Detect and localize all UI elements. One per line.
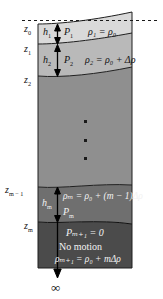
layer-1-pressure-label: P1: [64, 27, 73, 39]
depth-label-zm-1-sub: m − 1: [9, 190, 24, 197]
infinity-symbol: ∞: [51, 280, 60, 296]
depth-label-zm: zm: [24, 221, 33, 233]
bottom-layer-density-equation: ρₘ₊₁ = ρ₀ + mΔρ: [55, 255, 121, 265]
layer-m-thickness-label: hm: [42, 198, 52, 210]
layer-m-pressure-label: Pm: [63, 207, 74, 219]
bottom-layer-pressure-equation: Pₘ₊₁ = 0: [66, 228, 104, 238]
depth-label-z1-sub: 1: [28, 49, 31, 56]
ellipsis-dot-3: [84, 157, 87, 160]
ellipsis-dot-2: [84, 139, 87, 142]
depth-label-z0-sub: 0: [28, 29, 31, 36]
depth-label-z2: z2: [24, 75, 31, 87]
no-motion-label: No motion: [59, 242, 102, 252]
layer-1-thickness-label: h1: [43, 27, 51, 39]
layer-m-density-equation: ρₘ = ρ₀ + (m − 1)Δρ: [63, 192, 143, 202]
depth-label-z2-sub: 2: [28, 80, 31, 87]
stratified-fluid-diagram: z0 z1 z2 zm − 1 zm h1 P1 ρ₁ = ρ₀ h2 P2 ρ…: [0, 0, 163, 299]
layer-2-thickness-label: h2: [43, 55, 51, 67]
layer-2-pressure-label: P2: [64, 55, 73, 67]
vertical-ellipsis: [84, 120, 87, 160]
layer-1-density-equation: ρ₁ = ρ₀: [88, 27, 116, 37]
depth-label-zm-1: zm − 1: [5, 185, 23, 197]
depth-label-zm-sub: m: [28, 226, 33, 233]
depth-label-z0: z0: [24, 24, 31, 36]
layer-2-density-equation: ρ₂ = ρ₀ + Δρ: [85, 55, 136, 65]
depth-label-z1: z1: [24, 44, 31, 56]
ellipsis-dot-1: [84, 120, 87, 123]
